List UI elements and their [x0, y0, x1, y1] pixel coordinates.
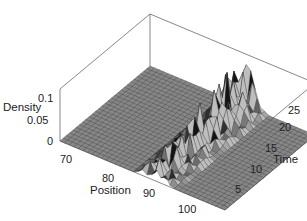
- z-tick-0.05: 0.05: [27, 115, 48, 126]
- z-axis-label: Density: [3, 102, 41, 114]
- z-tick-0.1: 0.1: [38, 93, 53, 104]
- y-tick-25: 25: [288, 105, 300, 116]
- x-tick-80: 80: [102, 173, 114, 184]
- y-tick-10: 10: [250, 164, 262, 175]
- y-tick-5: 5: [235, 184, 241, 195]
- x-axis-label: Position: [90, 185, 131, 197]
- y-axis-label: Time: [273, 154, 298, 166]
- y-tick-20: 20: [279, 122, 291, 133]
- x-tick-90: 90: [143, 188, 155, 199]
- z-tick-0: 0: [47, 136, 53, 147]
- x-tick-100: 100: [178, 204, 196, 215]
- x-tick-70: 70: [60, 154, 72, 165]
